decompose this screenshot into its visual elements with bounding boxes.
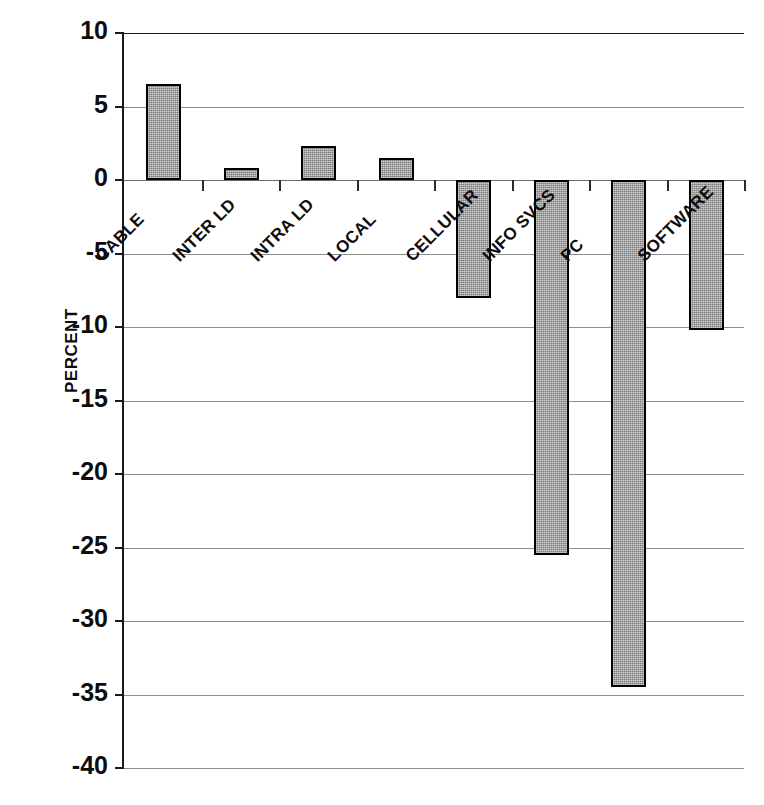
y-gridline xyxy=(124,401,744,402)
y-axis-tick xyxy=(115,326,124,328)
y-axis-tick-label: -15 xyxy=(18,384,108,413)
bar-inter-ld xyxy=(224,168,259,180)
y-axis-tick xyxy=(115,400,124,402)
bar-cable xyxy=(146,84,181,180)
y-axis-tick xyxy=(115,620,124,622)
x-axis-tick xyxy=(357,180,359,191)
x-axis-tick xyxy=(744,180,746,191)
y-gridline xyxy=(124,768,744,769)
y-axis-tick xyxy=(115,473,124,475)
y-axis-tick xyxy=(115,694,124,696)
y-gridline xyxy=(124,327,744,328)
y-axis-tick-label: 10 xyxy=(18,16,108,45)
x-axis-tick xyxy=(589,180,591,191)
y-gridline xyxy=(124,548,744,549)
x-axis-tick xyxy=(279,180,281,191)
y-axis-tick xyxy=(115,179,124,181)
y-axis-tick-label: -25 xyxy=(18,531,108,560)
bar-local xyxy=(379,158,414,180)
y-axis-tick xyxy=(115,547,124,549)
y-gridline xyxy=(124,107,744,108)
bar-intra-ld xyxy=(301,146,336,180)
y-axis-tick-label: -10 xyxy=(18,310,108,339)
y-axis-tick xyxy=(115,106,124,108)
x-axis-tick xyxy=(202,180,204,191)
y-gridline xyxy=(124,33,744,34)
y-axis-tick xyxy=(115,32,124,34)
y-gridline xyxy=(124,695,744,696)
y-axis-tick-label: 5 xyxy=(18,90,108,119)
x-axis-tick xyxy=(512,180,514,191)
x-axis-tick xyxy=(667,180,669,191)
y-axis-tick-label: -35 xyxy=(18,678,108,707)
y-gridline xyxy=(124,621,744,622)
bar-chart: PERCENT 1050-5-10-15-20-25-30-35-40CABLE… xyxy=(0,0,764,805)
y-axis-tick-label: 0 xyxy=(18,163,108,192)
y-axis-tick-label: -30 xyxy=(18,604,108,633)
y-gridline xyxy=(124,474,744,475)
y-axis-tick xyxy=(115,767,124,769)
x-axis-tick xyxy=(434,180,436,191)
y-axis-tick-label: -20 xyxy=(18,457,108,486)
y-axis-tick-label: -40 xyxy=(18,751,108,780)
bar-info-svcs xyxy=(534,180,569,555)
plot-area: PERCENT xyxy=(122,33,742,768)
